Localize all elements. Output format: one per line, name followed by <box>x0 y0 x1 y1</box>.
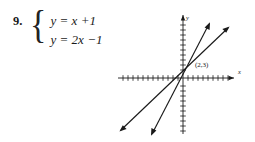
x-axis-label: x <box>237 68 241 75</box>
line-y-equals-2x-minus-1 <box>151 22 210 136</box>
equation-2: y = 2x −1 <box>51 30 103 49</box>
line-2-segment <box>152 24 209 134</box>
problem-statement: 9. { y = x +1 y = 2x −1 <box>13 10 102 49</box>
line-2-arrowhead-lower <box>151 128 156 136</box>
equation-1: y = x +1 <box>51 11 103 30</box>
x-axis-arrowhead <box>229 76 235 80</box>
system-brace: { <box>30 6 46 49</box>
worksheet-problem-figure: 9. { y = x +1 y = 2x −1 <box>0 0 255 142</box>
graph-svg: x <box>110 4 255 142</box>
line-2-arrowhead-upper <box>205 22 210 30</box>
coordinate-graph: x <box>110 4 255 142</box>
equation-list: y = x +1 y = 2x −1 <box>51 10 103 49</box>
equation-system: { y = x +1 y = 2x −1 <box>30 10 102 49</box>
y-axis-label: y <box>185 14 189 21</box>
intersection-point-label: (2,3) <box>195 61 209 69</box>
problem-number: 9. <box>13 10 22 28</box>
line-1-segment <box>121 28 228 130</box>
y-axis-arrowhead <box>181 15 185 21</box>
y-axis: y <box>180 14 189 134</box>
